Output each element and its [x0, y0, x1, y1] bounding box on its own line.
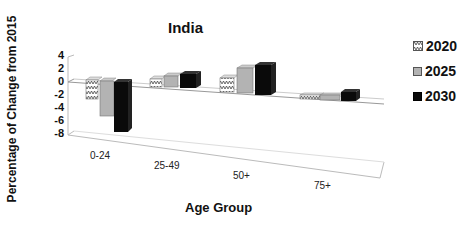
zigzag-swatch-icon: [413, 41, 423, 51]
plot-area: [0, 0, 464, 229]
legend: 2020 2025 2030: [413, 38, 457, 113]
bar-group-25-49: [150, 71, 201, 88]
black-swatch-icon: [413, 92, 422, 101]
x-tick: 75+: [314, 180, 331, 191]
gray-swatch-icon: [413, 67, 422, 76]
x-tick: 0-24: [90, 150, 110, 161]
legend-item-2020: 2020: [413, 38, 457, 54]
bar-group-0-24: [86, 77, 132, 132]
x-tick: 25-49: [154, 160, 180, 171]
bar-group-50+: [220, 62, 276, 95]
legend-item-2025: 2025: [413, 63, 457, 79]
legend-item-2030: 2030: [413, 88, 457, 104]
bar-group-75+: [300, 89, 360, 101]
x-tick: 50+: [233, 170, 250, 181]
